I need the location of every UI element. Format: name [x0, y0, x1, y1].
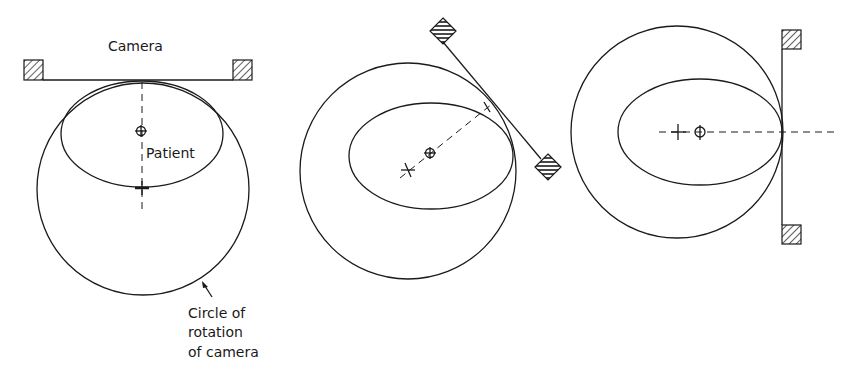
panel-2 [300, 18, 561, 279]
circle-label-line-1: Circle of [188, 305, 246, 321]
camera-end-top-icon [430, 18, 456, 44]
camera-end-right-icon [233, 60, 252, 80]
camera-end-left-icon [24, 60, 43, 80]
patient-ellipse [349, 103, 513, 209]
rotation-center-icon [671, 124, 686, 140]
patient-label: Patient [146, 145, 195, 161]
camera-label: Camera [108, 38, 163, 54]
patient-center-icon [424, 147, 436, 159]
camera-end-bottom-icon [535, 154, 561, 180]
patient-center-icon [135, 125, 147, 137]
camera-face-line [443, 42, 541, 159]
circle-label-line-3: of camera [188, 344, 259, 360]
camera-end-top-icon [782, 30, 801, 49]
camera-rotation-diagram: Camera Patient Circle of rotation of cam… [0, 0, 852, 372]
axis-end-tick [484, 102, 490, 112]
camera-end-bottom-icon [782, 225, 801, 244]
panel-1: Camera Patient Circle of rotation of cam… [24, 38, 259, 360]
panel-3 [571, 26, 834, 244]
arrow-head-icon [202, 281, 208, 288]
circle-label-line-2: rotation [188, 324, 243, 340]
axis-dashed-line [400, 104, 492, 178]
rotation-center-icon [135, 181, 149, 195]
